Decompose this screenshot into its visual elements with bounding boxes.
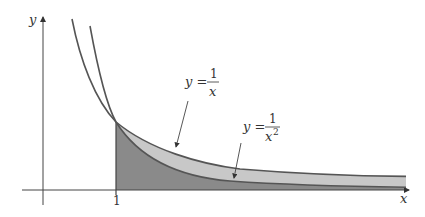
label-reciprocal: y = 1 x xyxy=(184,67,219,99)
tick-label-1: 1 xyxy=(113,194,121,208)
graph-figure: y x 1 y = 1 x y = 1 x 2 xyxy=(0,0,425,217)
svg-text:y =: y = xyxy=(242,119,265,134)
svg-text:x: x xyxy=(209,84,217,99)
svg-text:y =: y = xyxy=(184,74,207,89)
arrow-reciprocal xyxy=(176,101,188,147)
label-reciprocal-square: y = 1 x 2 xyxy=(242,112,280,144)
svg-text:1: 1 xyxy=(210,67,218,81)
x-axis-label: x xyxy=(400,191,408,206)
svg-text:x: x xyxy=(265,129,273,144)
y-axis-label: y xyxy=(28,12,37,27)
svg-text:1: 1 xyxy=(269,112,277,126)
svg-text:2: 2 xyxy=(273,127,279,137)
